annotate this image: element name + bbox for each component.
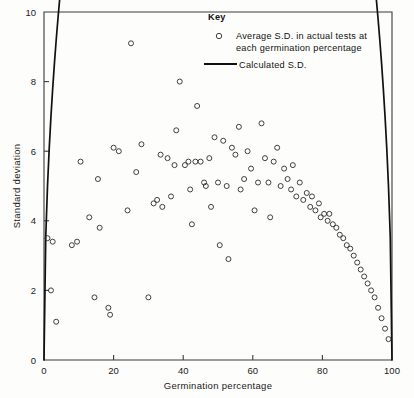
data-point [386, 337, 391, 342]
data-point [75, 239, 80, 244]
data-point [134, 170, 139, 175]
x-axis: 020406080100 [41, 355, 400, 376]
data-point [308, 204, 313, 209]
data-point [111, 145, 116, 150]
data-point [249, 166, 254, 171]
data-point [290, 163, 295, 168]
data-point [209, 204, 214, 209]
data-point [372, 295, 377, 300]
x-tick-label: 40 [178, 365, 189, 376]
data-point [348, 246, 353, 251]
y-tick-label: 10 [25, 7, 36, 18]
data-point [309, 194, 314, 199]
data-point [177, 79, 182, 84]
data-point [87, 215, 92, 220]
data-point [216, 180, 221, 185]
data-point [268, 215, 273, 220]
x-tick-label: 0 [41, 365, 46, 376]
data-point [172, 163, 177, 168]
data-point [50, 239, 55, 244]
data-point [325, 218, 330, 223]
y-tick-label: 8 [31, 76, 36, 87]
data-point [369, 288, 374, 293]
data-point [379, 316, 384, 321]
legend-title: Key [208, 12, 226, 22]
data-point [174, 128, 179, 133]
data-point [376, 305, 381, 310]
data-point [226, 257, 231, 262]
data-point [256, 180, 261, 185]
data-point [242, 177, 247, 182]
data-point [198, 159, 203, 164]
data-point [92, 295, 97, 300]
legend-marker-open-circle [216, 33, 221, 38]
data-point [224, 184, 229, 189]
data-point [169, 194, 174, 199]
scatter-plot-svg: 0246810020406080100Germination percentag… [0, 0, 414, 398]
x-tick-label: 60 [248, 365, 259, 376]
data-point [238, 187, 243, 192]
data-point [327, 211, 332, 216]
data-point [278, 184, 283, 189]
data-point [129, 41, 134, 46]
data-point [193, 159, 198, 164]
y-tick-label: 4 [31, 215, 36, 226]
data-point [146, 295, 151, 300]
data-point [334, 225, 339, 230]
x-tick-label: 80 [317, 365, 328, 376]
data-point [355, 260, 360, 265]
data-point [217, 243, 222, 248]
data-point [341, 236, 346, 241]
data-point [313, 208, 318, 213]
data-point [262, 156, 267, 161]
data-point [78, 159, 83, 164]
data-point [266, 180, 271, 185]
data-point [245, 149, 250, 154]
scatter-points [45, 41, 391, 342]
legend-label-calculated-sd: Calculated S.D. [239, 60, 307, 70]
data-point [294, 194, 299, 199]
data-point [54, 319, 59, 324]
data-point [365, 281, 370, 286]
data-point [207, 156, 212, 161]
data-point [189, 222, 194, 227]
data-point [271, 159, 276, 164]
data-point [285, 177, 290, 182]
data-point [233, 152, 238, 157]
data-point [69, 243, 74, 248]
data-point [275, 145, 280, 150]
data-point [155, 197, 160, 202]
chart-legend: KeyAverage S.D. in actual tests ateach g… [204, 12, 367, 70]
data-point [116, 149, 121, 154]
data-point [48, 288, 53, 293]
data-point [221, 138, 226, 143]
data-point [106, 305, 111, 310]
data-point [160, 204, 165, 209]
data-point [259, 121, 264, 126]
data-point [322, 211, 327, 216]
legend-label-line2: each germination percentage [236, 43, 362, 53]
data-point [358, 267, 363, 272]
data-point [304, 190, 309, 195]
data-point [383, 326, 388, 331]
data-point [301, 197, 306, 202]
data-point [139, 142, 144, 147]
x-tick-label: 100 [384, 365, 400, 376]
data-point [252, 208, 257, 213]
y-tick-label: 0 [31, 355, 36, 366]
data-point [165, 156, 170, 161]
data-point [158, 152, 163, 157]
y-tick-label: 6 [31, 146, 36, 157]
data-point [297, 180, 302, 185]
data-point [316, 201, 321, 206]
data-point [212, 135, 217, 140]
data-point [236, 124, 241, 129]
data-point [229, 145, 234, 150]
y-axis-title: Standard deviation [11, 144, 22, 229]
chart-figure: 0246810020406080100Germination percentag… [0, 0, 414, 398]
data-point [362, 274, 367, 279]
x-tick-label: 20 [108, 365, 119, 376]
data-point [289, 187, 294, 192]
data-point [95, 177, 100, 182]
data-point [195, 103, 200, 108]
